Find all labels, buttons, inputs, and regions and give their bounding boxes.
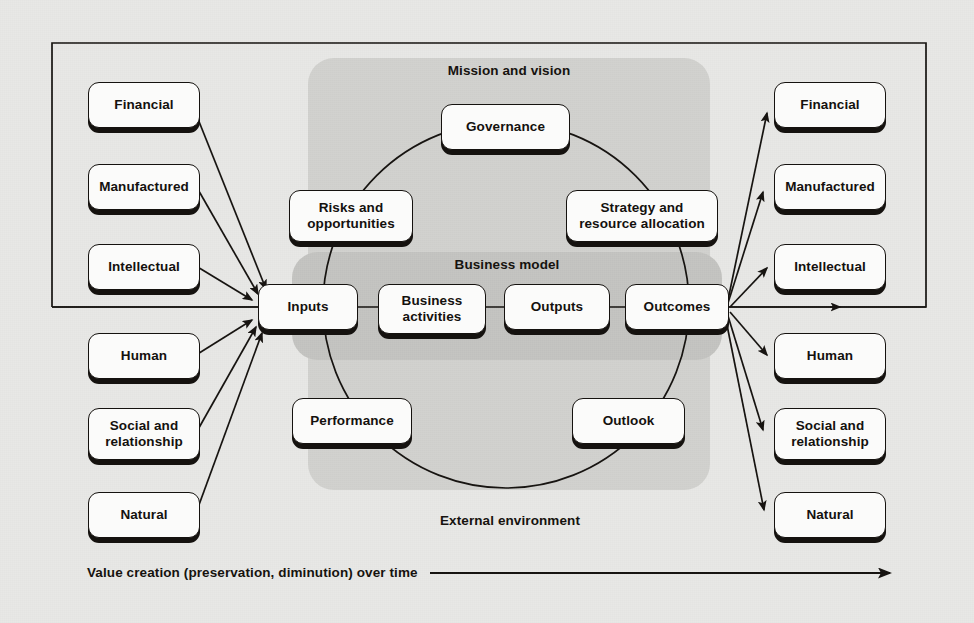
business-model-node-outcomes-label: Outcomes <box>644 299 711 315</box>
capital-output-financial[interactable]: Financial <box>774 82 886 128</box>
capital-output-intellectual-label: Intellectual <box>794 259 866 275</box>
cycle-node-strategy-and-resource-allocation[interactable]: Strategy and resource allocation <box>566 190 718 242</box>
zone-label-business-model: Business model <box>292 257 722 272</box>
outbound-arrows <box>726 113 767 510</box>
arrow-outcomes-to-social <box>728 316 763 430</box>
arrow-outcomes-to-human <box>730 312 767 355</box>
arrow-intellectual-to-inputs <box>196 266 252 300</box>
capital-output-natural[interactable]: Natural <box>774 492 886 538</box>
capital-input-manufactured-label: Manufactured <box>99 179 189 195</box>
arrow-outcomes-to-intellectual <box>730 268 767 307</box>
capital-input-human-label: Human <box>121 348 167 364</box>
cycle-node-performance-label: Performance <box>310 413 394 429</box>
business-model-node-outcomes[interactable]: Outcomes <box>625 284 729 330</box>
cycle-node-governance[interactable]: Governance <box>441 104 570 150</box>
arrow-manufactured-to-inputs <box>196 186 258 294</box>
capital-output-manufactured-label: Manufactured <box>785 179 875 195</box>
cycle-node-outlook[interactable]: Outlook <box>572 398 685 444</box>
timeline-caption: Value creation (preservation, diminution… <box>87 565 418 580</box>
capital-output-financial-label: Financial <box>800 97 859 113</box>
arrow-social-to-inputs <box>196 327 256 433</box>
capital-input-financial[interactable]: Financial <box>88 82 200 128</box>
cycle-node-strategy-and-resource-allocation-label: Strategy and resource allocation <box>579 200 705 232</box>
diagram-canvas: Mission and vision Business model Extern… <box>0 0 974 623</box>
capital-output-manufactured[interactable]: Manufactured <box>774 164 886 210</box>
zone-label-mission-and-vision: Mission and vision <box>308 63 710 78</box>
business-model-node-inputs-label: Inputs <box>287 299 328 315</box>
capital-input-natural[interactable]: Natural <box>88 492 200 538</box>
arrow-outcomes-to-manufactured <box>728 192 763 303</box>
arrow-financial-to-inputs <box>192 104 266 289</box>
business-model-node-outputs-label: Outputs <box>531 299 583 315</box>
capital-input-intellectual[interactable]: Intellectual <box>88 244 200 290</box>
cycle-node-governance-label: Governance <box>466 119 545 135</box>
arrow-natural-to-inputs <box>196 333 262 513</box>
inbound-arrows <box>192 104 266 513</box>
cycle-node-risks-and-opportunities-label: Risks and opportunities <box>307 200 395 232</box>
capital-output-intellectual[interactable]: Intellectual <box>774 244 886 290</box>
business-model-node-business-activities[interactable]: Business activities <box>378 284 486 334</box>
business-model-node-business-activities-label: Business activities <box>402 293 463 325</box>
capital-input-social-and-relationship[interactable]: Social and relationship <box>88 408 200 460</box>
capital-input-natural-label: Natural <box>120 507 167 523</box>
capital-output-social-and-relationship[interactable]: Social and relationship <box>774 408 886 460</box>
capital-output-natural-label: Natural <box>806 507 853 523</box>
cycle-node-performance[interactable]: Performance <box>292 398 412 444</box>
arrow-outcomes-to-financial <box>728 113 767 300</box>
business-model-node-inputs[interactable]: Inputs <box>258 284 358 330</box>
zone-label-external-environment: External environment <box>380 513 640 528</box>
capital-input-manufactured[interactable]: Manufactured <box>88 164 200 210</box>
business-model-node-outputs[interactable]: Outputs <box>504 284 610 330</box>
cycle-node-risks-and-opportunities[interactable]: Risks and opportunities <box>289 190 413 242</box>
capital-input-human[interactable]: Human <box>88 333 200 379</box>
capital-output-human-label: Human <box>807 348 853 364</box>
capital-input-social-and-relationship-label: Social and relationship <box>105 418 183 450</box>
capital-input-financial-label: Financial <box>114 97 173 113</box>
capital-output-human[interactable]: Human <box>774 333 886 379</box>
cycle-node-outlook-label: Outlook <box>603 413 655 429</box>
capital-output-social-and-relationship-label: Social and relationship <box>791 418 869 450</box>
capital-input-intellectual-label: Intellectual <box>108 259 180 275</box>
